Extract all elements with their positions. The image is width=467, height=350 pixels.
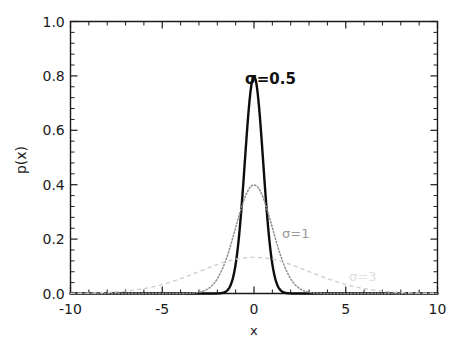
y-tick-label: 1.0 bbox=[43, 15, 65, 29]
x-tick-label: 10 bbox=[429, 302, 447, 316]
axes-frame bbox=[71, 22, 438, 294]
axis-ticks bbox=[71, 22, 438, 294]
series-annotation-sigma-3: σ=3 bbox=[349, 270, 376, 283]
figure-canvas: -10-50510 0.00.20.40.60.81.0 x p(x) σ=0.… bbox=[0, 0, 467, 350]
y-tick-label: 0.0 bbox=[43, 287, 65, 301]
x-tick-label: -5 bbox=[155, 302, 169, 316]
y-tick-label: 0.6 bbox=[43, 123, 65, 137]
series-annotation-sigma-1: σ=1 bbox=[282, 227, 309, 240]
plot-frame bbox=[71, 22, 438, 294]
plot-area bbox=[0, 0, 467, 350]
series-annotation-sigma-0p5: σ=0.5 bbox=[245, 72, 296, 87]
y-tick-label: 0.8 bbox=[43, 69, 65, 83]
curve-1 bbox=[71, 185, 438, 294]
y-axis-label: p(x) bbox=[14, 146, 28, 174]
curve-05 bbox=[71, 76, 438, 293]
y-tick-label: 0.4 bbox=[43, 178, 65, 192]
x-tick-label: -10 bbox=[59, 302, 82, 316]
x-axis-label: x bbox=[250, 324, 258, 337]
y-tick-label: 0.2 bbox=[43, 232, 65, 246]
y-axis-label-wrapper: p(x) bbox=[10, 135, 32, 185]
x-tick-label: 0 bbox=[250, 302, 259, 316]
data-curves bbox=[71, 76, 438, 293]
x-tick-label: 5 bbox=[341, 302, 350, 316]
